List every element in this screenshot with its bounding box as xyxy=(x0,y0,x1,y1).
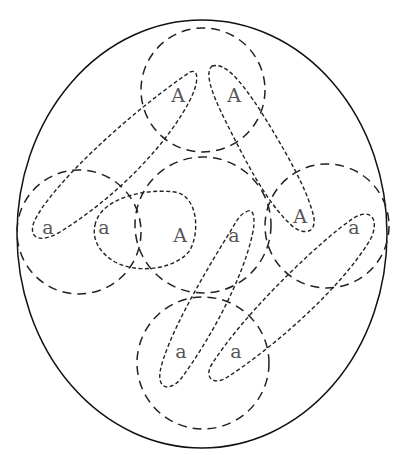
allele-labels: A A a a A a A a a a xyxy=(42,84,359,362)
cell-circle-top xyxy=(141,28,265,152)
cell-circle-center xyxy=(135,157,271,293)
allele-label: a xyxy=(348,216,359,238)
allele-label: a xyxy=(175,340,186,362)
allele-label: A xyxy=(170,84,185,106)
allele-label: a xyxy=(98,216,109,238)
outer-cell-boundary xyxy=(17,20,387,448)
allele-label: a xyxy=(42,216,53,238)
allele-label: A xyxy=(226,84,241,106)
allele-label: a xyxy=(230,340,241,362)
cell-circle-left xyxy=(17,170,141,294)
cell-circle-right xyxy=(265,164,389,288)
cell-circle-bottom xyxy=(137,297,269,429)
allele-label: a xyxy=(228,224,239,246)
allele-label: A xyxy=(172,224,187,246)
genetics-diagram: A A a a A a A a a a xyxy=(0,0,400,455)
allele-label: A xyxy=(292,205,307,227)
